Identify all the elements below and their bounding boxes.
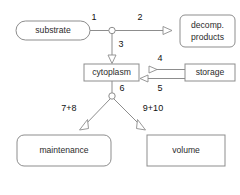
edge-junction-to-decomp bbox=[115, 27, 172, 35]
flux-label-2: 2 bbox=[137, 12, 142, 22]
node-maintenance-label: maintenance bbox=[39, 145, 88, 155]
node-decomp-products[interactable]: decomp. products bbox=[180, 15, 235, 47]
flux-label-9-10: 9+10 bbox=[143, 103, 163, 113]
flux-diagram: substrate decomp. products cytoplasm sto… bbox=[0, 0, 240, 195]
junction-lower bbox=[109, 93, 115, 99]
edge-junction-to-maintenance bbox=[80, 99, 111, 130]
edge-cytoplasm-to-storage bbox=[149, 66, 185, 73]
node-maintenance[interactable]: maintenance bbox=[17, 135, 111, 166]
arrowhead-icon-storage bbox=[149, 66, 157, 73]
flux-label-5: 5 bbox=[157, 83, 162, 93]
arrowhead-icon-volume bbox=[137, 120, 146, 131]
flux-label-1: 1 bbox=[91, 12, 96, 22]
flux-label-3: 3 bbox=[118, 39, 123, 49]
diagram-canvas: substrate decomp. products cytoplasm sto… bbox=[0, 0, 240, 195]
edge-junction-to-cytoplasm bbox=[108, 34, 116, 64]
node-cytoplasm-label: cytoplasm bbox=[92, 67, 131, 77]
arrowhead-icon-maintenance bbox=[80, 120, 89, 131]
arrowhead-icon-decomp bbox=[163, 27, 172, 35]
arrowhead-icon-cytoplasm bbox=[108, 55, 116, 64]
edge-junction-to-volume bbox=[114, 99, 146, 130]
node-volume-label: volume bbox=[172, 145, 200, 155]
edge-storage-to-cytoplasm bbox=[140, 75, 185, 82]
node-cytoplasm[interactable]: cytoplasm bbox=[84, 64, 139, 81]
flux-label-6: 6 bbox=[119, 83, 124, 93]
node-decomp-products-label-line2: products bbox=[191, 32, 224, 42]
arrowhead-icon-cytoplasm-return bbox=[140, 75, 148, 82]
flux-label-4: 4 bbox=[157, 53, 162, 63]
node-substrate[interactable]: substrate bbox=[16, 21, 90, 40]
node-storage-label: storage bbox=[196, 67, 225, 77]
node-volume[interactable]: volume bbox=[147, 135, 225, 166]
node-decomp-products-label-line1: decomp. bbox=[191, 20, 224, 30]
junction-upper bbox=[109, 27, 115, 33]
flux-label-7-8: 7+8 bbox=[61, 103, 76, 113]
node-storage[interactable]: storage bbox=[185, 64, 235, 81]
node-substrate-label: substrate bbox=[35, 25, 71, 35]
